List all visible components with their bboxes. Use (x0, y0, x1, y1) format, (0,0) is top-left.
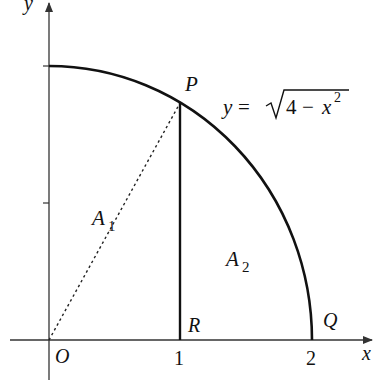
curve-equation-label: y = 4 − x 2 (221, 90, 349, 119)
region-label-A2: A 2 (224, 247, 250, 275)
svg-text:x: x (321, 95, 332, 119)
point-label-O: O (55, 345, 69, 367)
x-axis-label: x (361, 342, 371, 364)
point-label-R: R (187, 314, 200, 336)
region-label-A1: A 1 (90, 206, 116, 234)
svg-text:=: = (238, 95, 250, 119)
y-axis-label: y (22, 0, 33, 15)
svg-text:−: − (302, 95, 314, 119)
svg-text:2: 2 (334, 90, 341, 105)
svg-text:A: A (224, 247, 239, 271)
tick-label-1: 1 (174, 347, 184, 369)
quarter-circle-diagram: y x O 1 2 R Q P A 1 A 2 y = 4 − x 2 (0, 0, 382, 391)
svg-text:4: 4 (286, 95, 297, 119)
point-label-P: P (184, 72, 198, 96)
svg-text:y: y (221, 95, 233, 119)
svg-text:2: 2 (242, 259, 250, 275)
tick-label-2: 2 (306, 347, 316, 369)
svg-text:1: 1 (108, 218, 116, 234)
svg-text:A: A (90, 206, 105, 230)
point-label-Q: Q (323, 309, 338, 331)
